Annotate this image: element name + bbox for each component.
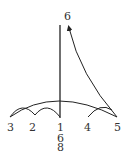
beat-label-5: 5 <box>114 121 121 134</box>
beat-label-4: 4 <box>84 121 91 134</box>
beat-label-3: 3 <box>7 121 14 134</box>
large-arc <box>10 101 117 117</box>
time-signature-denominator: 8 <box>57 141 64 154</box>
scallop-4-5 <box>88 107 112 117</box>
beat-label-2: 2 <box>29 121 36 134</box>
beat-label-6: 6 <box>64 10 71 23</box>
conducting-diagram: 6 3 2 1 4 5 6 8 <box>0 0 128 160</box>
scallop-2-1 <box>35 108 60 117</box>
arrow-to-6 <box>69 28 117 117</box>
